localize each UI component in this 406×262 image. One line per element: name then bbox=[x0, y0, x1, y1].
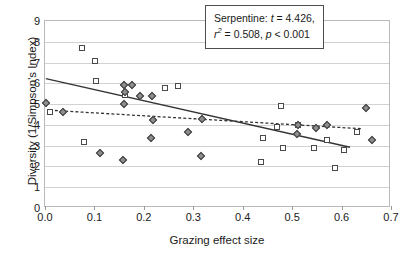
data-point-square bbox=[324, 137, 330, 143]
data-point-square bbox=[47, 109, 53, 115]
stats-annotation-box: Serpentine: t = 4.426, r2 = 0.508, p < 0… bbox=[205, 5, 324, 49]
x-tick-label: 0.4 bbox=[226, 212, 260, 223]
data-point-square bbox=[341, 147, 347, 153]
y-tick-label: 5 bbox=[10, 99, 40, 110]
y-tick-label: 2 bbox=[10, 161, 40, 172]
annotation-line-1: Serpentine: t = 4.426, bbox=[214, 11, 315, 26]
data-point-square bbox=[354, 129, 360, 135]
x-tick-mark bbox=[391, 206, 392, 210]
x-tick-mark bbox=[94, 206, 95, 210]
x-tick-label: 0.0 bbox=[28, 212, 62, 223]
data-point-square bbox=[332, 165, 338, 171]
y-tick-label: 7 bbox=[10, 57, 40, 68]
data-point-square bbox=[175, 83, 181, 89]
y-tick-label: 9 bbox=[10, 16, 40, 27]
annotation-label: Serpentine: bbox=[214, 12, 268, 24]
y-tick-label: 4 bbox=[10, 119, 40, 130]
x-tick-label: 0.7 bbox=[374, 212, 406, 223]
annotation-p-value: < 0.001 bbox=[275, 28, 310, 40]
data-point-square bbox=[274, 124, 280, 130]
data-point-square bbox=[258, 159, 264, 165]
x-axis-title: Grazing effect size bbox=[44, 234, 390, 246]
data-point-square bbox=[92, 58, 98, 64]
x-tick-mark bbox=[193, 206, 194, 210]
data-point-square bbox=[162, 85, 168, 91]
y-tick-label: 6 bbox=[10, 78, 40, 89]
data-point-square bbox=[93, 78, 99, 84]
y-tick-label: 3 bbox=[10, 140, 40, 151]
annotation-r-exponent: 2 bbox=[218, 26, 222, 35]
x-tick-mark bbox=[45, 206, 46, 210]
chart-figure: Diversity (1/Simpson's Index) Grazing ef… bbox=[0, 0, 406, 262]
y-tick-label: 1 bbox=[10, 182, 40, 193]
annotation-t-symbol: t bbox=[271, 12, 274, 24]
data-point-square bbox=[280, 145, 286, 151]
x-tick-label: 0.2 bbox=[127, 212, 161, 223]
annotation-p-symbol: p bbox=[266, 28, 272, 40]
x-tick-label: 0.3 bbox=[176, 212, 210, 223]
x-tick-label: 0.1 bbox=[77, 212, 111, 223]
annotation-line-2: r2 = 0.508, p < 0.001 bbox=[214, 26, 315, 42]
y-tick-label: 8 bbox=[10, 36, 40, 47]
annotation-r-value: = 0.508, bbox=[225, 28, 263, 40]
data-point-square bbox=[81, 139, 87, 145]
x-tick-mark bbox=[144, 206, 145, 210]
x-tick-mark bbox=[243, 206, 244, 210]
annotation-t-value: = 4.426, bbox=[276, 12, 314, 24]
data-point-square bbox=[79, 45, 85, 51]
x-tick-label: 0.5 bbox=[275, 212, 309, 223]
x-tick-mark bbox=[342, 206, 343, 210]
x-tick-mark bbox=[292, 206, 293, 210]
data-point-square bbox=[278, 103, 284, 109]
data-point-square bbox=[311, 145, 317, 151]
x-tick-label: 0.6 bbox=[325, 212, 359, 223]
data-point-square bbox=[260, 135, 266, 141]
